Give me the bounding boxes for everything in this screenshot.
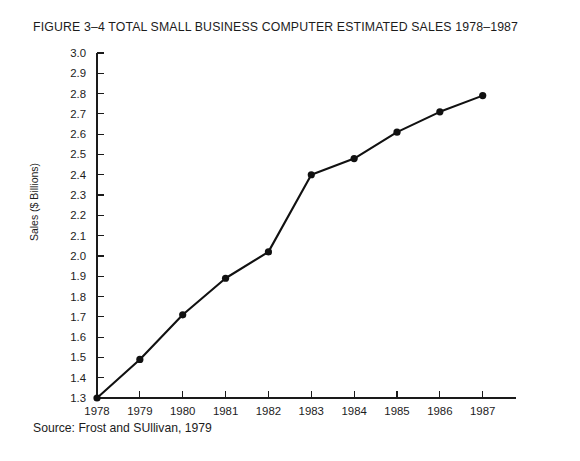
x-tick-label: 1982 <box>256 405 281 417</box>
data-point <box>136 356 143 363</box>
data-point <box>351 155 358 162</box>
y-tick-label: 2.1 <box>70 230 86 242</box>
data-point <box>222 275 229 282</box>
data-point <box>393 129 400 136</box>
x-tick-label: 1980 <box>170 405 195 417</box>
y-tick-label: 2.0 <box>70 250 86 262</box>
y-tick-label: 2.9 <box>70 67 86 79</box>
x-axis-ticks: 1978197919801981198219831984198519861987 <box>84 391 495 417</box>
y-tick-label: 1.4 <box>70 372 86 384</box>
y-tick-label: 1.7 <box>70 311 86 323</box>
y-tick-label: 2.8 <box>70 88 86 100</box>
data-point <box>436 108 443 115</box>
y-tick-label: 2.6 <box>70 128 86 140</box>
data-point <box>179 311 186 318</box>
data-series-group <box>93 92 486 402</box>
x-tick-label: 1984 <box>341 405 366 417</box>
y-tick-label: 2.3 <box>70 189 86 201</box>
data-point <box>93 394 100 401</box>
y-tick-label: 2.5 <box>70 148 86 160</box>
x-tick-label: 1979 <box>127 405 152 417</box>
y-tick-label: 1.3 <box>70 392 86 404</box>
y-tick-label: 2.2 <box>70 209 86 221</box>
y-tick-label: 1.8 <box>70 291 86 303</box>
source-note: Source: Frost and SUllivan, 1979 <box>33 421 212 435</box>
data-point <box>265 248 272 255</box>
y-tick-label: 1.9 <box>70 270 86 282</box>
x-tick-label: 1983 <box>299 405 324 417</box>
figure-container: FIGURE 3–4 TOTAL SMALL BUSINESS COMPUTER… <box>0 0 580 461</box>
x-tick-label: 1985 <box>384 405 409 417</box>
y-tick-label: 1.5 <box>70 351 86 363</box>
data-point <box>479 92 486 99</box>
x-tick-label: 1981 <box>213 405 238 417</box>
sales-data-points <box>93 92 486 402</box>
y-tick-label: 3.0 <box>70 47 86 59</box>
x-tick-label: 1986 <box>427 405 452 417</box>
line-chart-plot: 3.02.92.82.72.62.52.42.32.22.12.01.91.81… <box>0 0 580 461</box>
y-axis-ticks: 3.02.92.82.72.62.52.42.32.22.12.01.91.81… <box>70 47 104 404</box>
sales-line <box>97 96 483 398</box>
y-tick-label: 2.4 <box>70 169 86 181</box>
y-tick-label: 1.6 <box>70 331 86 343</box>
x-axis-group: 1978197919801981198219831984198519861987 <box>84 391 516 417</box>
x-tick-label: 1987 <box>470 405 495 417</box>
data-point <box>308 171 315 178</box>
x-tick-label: 1978 <box>84 405 109 417</box>
y-tick-label: 2.7 <box>70 108 86 120</box>
y-axis-group: 3.02.92.82.72.62.52.42.32.22.12.01.91.81… <box>70 47 104 404</box>
